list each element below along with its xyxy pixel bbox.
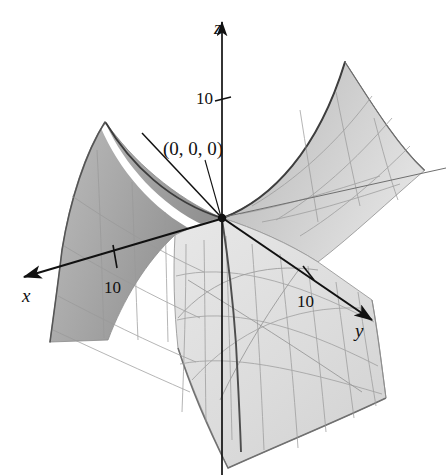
z-axis-tick-10	[215, 97, 231, 101]
saddle-surface	[50, 62, 446, 468]
y-axis-tick-label-10: 10	[297, 293, 314, 310]
z-axis-tick-label-10: 10	[196, 90, 213, 107]
origin-point-label: (0, 0, 0)	[163, 139, 223, 158]
x-axis-tick-label-10: 10	[104, 279, 121, 296]
origin-point-marker	[218, 214, 226, 222]
z-axis-label: z	[214, 18, 221, 37]
x-axis-label: x	[22, 286, 30, 305]
surface-plot-figure: z x y 10 10 10 (0, 0, 0)	[0, 0, 447, 475]
y-axis-label: y	[355, 321, 363, 340]
plot-canvas	[0, 0, 447, 475]
